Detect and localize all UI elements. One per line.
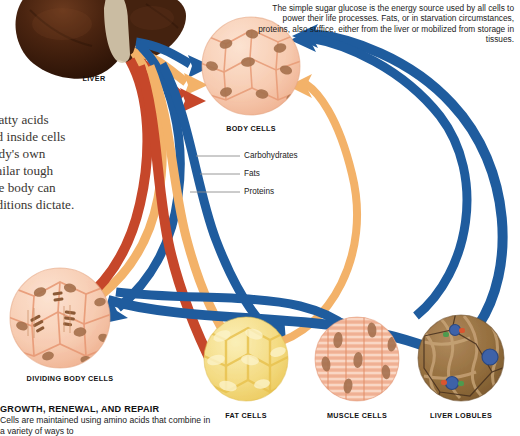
growth-caption-title: GROWTH, RENEWAL, AND REPAIR (0, 404, 215, 414)
side-text-line-1: fatty acids (0, 112, 49, 129)
side-text-line-3: ody's own (0, 146, 45, 163)
illustration-layer (0, 0, 520, 436)
legend-label-fats: Fats (244, 169, 260, 178)
growth-renewal-repair-caption: GROWTH, RENEWAL, AND REPAIR Cells are ma… (0, 404, 215, 436)
side-text-line-5: he body can (0, 180, 56, 197)
dividing-body-cells-illustration (6, 268, 112, 368)
legend-label-proteins: Proteins (244, 187, 274, 196)
caption-body-cells: BODY CELLS (211, 124, 291, 133)
growth-caption-body: Cells are maintained using amino acids t… (0, 415, 215, 436)
side-text-line-4: milar tough (0, 163, 53, 180)
caption-dividing-body-cells: DIVIDING BODY CELLS (5, 374, 135, 383)
liver-lobules-illustration (408, 312, 508, 408)
arrow-lobules-to-body-carbohydrate (292, 24, 503, 326)
side-text-line-6: nditions dictate. (0, 197, 74, 214)
legend-label-carbohydrates: Carbohydrates (244, 151, 298, 160)
side-text-line-2: nd inside cells (0, 129, 65, 146)
caption-fat-cells: FAT CELLS (206, 411, 286, 420)
figure-canvas: The simple sugar glucose is the energy s… (0, 0, 520, 436)
caption-liver-lobules: LIVER LOBULES (415, 411, 507, 420)
caption-muscle-cells: MUSCLE CELLS (312, 411, 402, 420)
glucose-explainer-note: The simple sugar glucose is the energy s… (258, 3, 514, 45)
arrow-muscle-to-body-carbohydrate (290, 28, 467, 316)
caption-liver: LIVER (64, 74, 124, 83)
